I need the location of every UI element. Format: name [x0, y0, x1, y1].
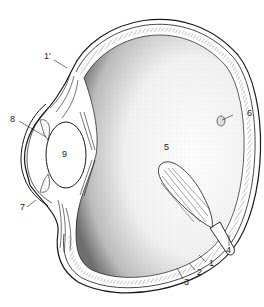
label-2: 2	[197, 268, 202, 277]
label-9: 9	[62, 150, 67, 159]
label-4: 4	[226, 246, 231, 255]
label-6: 6	[247, 109, 252, 118]
label-3: 3	[184, 278, 189, 287]
label-5: 5	[164, 143, 169, 152]
label-1: 1	[209, 259, 214, 268]
eye-diagram: 1' 1 2 3 4 5 6 7 8 9	[0, 0, 264, 307]
vortex-vein	[217, 116, 225, 126]
label-1-prime: 1'	[44, 52, 51, 61]
eye-illustration	[0, 0, 264, 307]
label-7: 7	[20, 203, 25, 212]
label-8: 8	[10, 115, 15, 124]
